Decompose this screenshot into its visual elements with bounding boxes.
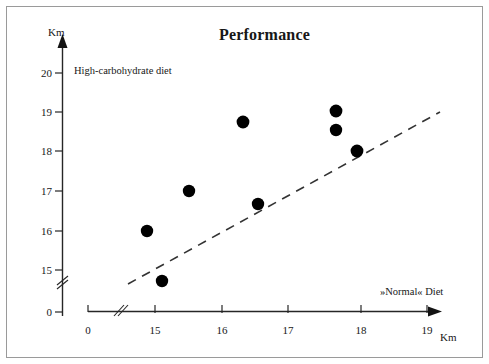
x-tick-label-18: 18 (349, 325, 373, 336)
y-tick-label-16: 16 (30, 226, 52, 237)
y-tick-label-0: 0 (30, 307, 52, 318)
y-tick-label-19: 19 (30, 107, 52, 118)
y-tick-label-17: 17 (30, 186, 52, 197)
y-axis-unit-label: Km (48, 27, 65, 38)
y-tick-label-15: 15 (30, 265, 52, 276)
x-tick-label-19: 19 (415, 325, 439, 336)
x-tick-label-16: 16 (210, 325, 234, 336)
chart-canvas (0, 0, 489, 364)
data-point (156, 275, 168, 287)
chart-title: Performance (219, 27, 310, 43)
data-point (252, 198, 264, 210)
y-tick-label-18: 18 (30, 146, 52, 157)
data-point (351, 145, 364, 158)
x-axis-title: »Normal« Diet (380, 287, 443, 298)
x-axis-unit-label: Km (440, 332, 457, 343)
data-point (330, 105, 343, 118)
x-tick-label-17: 17 (276, 325, 300, 336)
data-point (330, 124, 342, 136)
y-tick-label-20: 20 (30, 68, 52, 79)
x-axis-break-icon (114, 305, 128, 316)
y-axis (58, 34, 68, 316)
x-tick-label-0: 0 (76, 325, 100, 336)
chart-figure: Performance Km Km High-carbohydrate diet… (0, 0, 489, 364)
series-annotation-label: High-carbohydrate diet (74, 66, 172, 77)
x-axis (88, 305, 442, 317)
x-tick-label-15: 15 (143, 325, 167, 336)
data-points (141, 105, 364, 288)
trendline (128, 112, 440, 284)
data-point (141, 225, 153, 237)
data-point (237, 116, 250, 129)
data-point (183, 185, 195, 197)
